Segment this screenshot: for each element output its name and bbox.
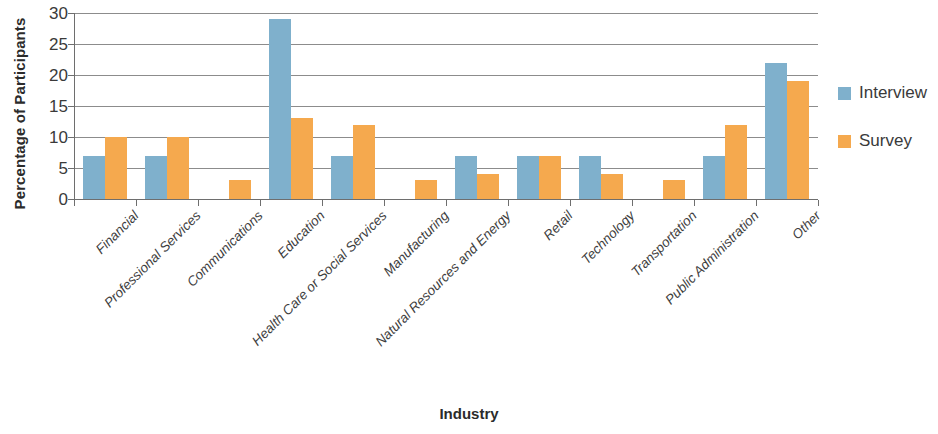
x-tick-label-4: Health Care or Social Services xyxy=(249,208,390,349)
x-tick-label-2: Communications xyxy=(184,208,266,290)
x-tick-label-1: Professional Services xyxy=(101,208,203,310)
y-tick-label-25: 25 xyxy=(49,36,68,53)
gridline-15 xyxy=(74,106,818,107)
x-axis-title: Industry xyxy=(0,405,938,422)
bar-survey-8 xyxy=(601,174,623,199)
gridline-25 xyxy=(74,44,818,45)
x-tick-label-7: Retail xyxy=(541,208,576,243)
x-tick-1 xyxy=(136,200,137,206)
y-tick-label-15: 15 xyxy=(49,98,68,115)
legend-swatch-interview xyxy=(838,87,851,100)
bar-survey-4 xyxy=(353,125,375,199)
y-tick-label-0: 0 xyxy=(59,191,68,208)
bar-interview-3 xyxy=(269,19,291,199)
x-tick-label-6: Natural Resources and Energy xyxy=(372,208,513,349)
y-tick-15 xyxy=(68,106,75,107)
y-tick-20 xyxy=(68,75,75,76)
plot-area xyxy=(74,13,818,199)
gridline-20 xyxy=(74,75,818,76)
y-tick-25 xyxy=(68,44,75,45)
bar-survey-0 xyxy=(105,137,127,199)
x-tick-label-8: Technology xyxy=(579,208,638,267)
y-tick-label-5: 5 xyxy=(59,160,68,177)
y-tick-label-20: 20 xyxy=(49,67,68,84)
y-tick-label-30: 30 xyxy=(49,5,68,22)
x-tick-label-11: Other xyxy=(789,208,823,242)
x-tick-10 xyxy=(694,200,695,206)
bar-chart: Percentage of Participants 051015202530 … xyxy=(0,0,938,434)
y-tick-10 xyxy=(68,137,75,138)
bar-survey-5 xyxy=(415,180,437,199)
bar-interview-4 xyxy=(331,156,353,199)
x-tick-label-0: Financial xyxy=(93,208,142,257)
x-tick-label-9: Transportation xyxy=(628,208,699,279)
x-tick-0 xyxy=(74,200,75,206)
x-tick-9 xyxy=(632,200,633,206)
bar-interview-7 xyxy=(517,156,539,199)
x-tick-5 xyxy=(384,200,385,206)
x-tick-2 xyxy=(198,200,199,206)
bar-interview-10 xyxy=(703,156,725,199)
legend-item-interview[interactable]: Interview xyxy=(838,84,938,102)
x-tick-11 xyxy=(756,200,757,206)
y-axis-tick-labels: 051015202530 xyxy=(24,0,68,214)
bar-interview-0 xyxy=(83,156,105,199)
x-tick-4 xyxy=(322,200,323,206)
x-tick-label-3: Education xyxy=(275,208,328,261)
x-tick-8 xyxy=(570,200,571,206)
bar-survey-3 xyxy=(291,118,313,199)
bar-interview-11 xyxy=(765,63,787,199)
x-tick-6 xyxy=(446,200,447,206)
bar-survey-2 xyxy=(229,180,251,199)
x-tick-3 xyxy=(260,200,261,206)
x-tick-end xyxy=(818,200,819,206)
bar-interview-1 xyxy=(145,156,167,199)
gridline-30 xyxy=(74,13,818,14)
bar-survey-11 xyxy=(787,81,809,199)
bar-interview-8 xyxy=(579,156,601,199)
y-tick-30 xyxy=(68,13,75,14)
y-tick-5 xyxy=(68,168,75,169)
legend-label-interview: Interview xyxy=(859,83,927,103)
chart-legend: InterviewSurvey xyxy=(838,84,938,180)
legend-item-survey[interactable]: Survey xyxy=(838,132,938,150)
y-tick-label-10: 10 xyxy=(49,129,68,146)
x-tick-label-5: Manufacturing xyxy=(380,208,451,279)
legend-swatch-survey xyxy=(838,135,851,148)
bar-survey-7 xyxy=(539,156,561,199)
bar-interview-6 xyxy=(455,156,477,199)
bar-survey-1 xyxy=(167,137,189,199)
bar-survey-6 xyxy=(477,174,499,199)
bar-survey-9 xyxy=(663,180,685,199)
x-tick-7 xyxy=(508,200,509,206)
bar-survey-10 xyxy=(725,125,747,199)
x-tick-label-10: Public Administration xyxy=(662,208,761,307)
legend-label-survey: Survey xyxy=(859,131,912,151)
